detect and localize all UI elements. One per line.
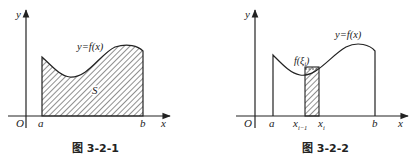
shaded-region-s [42,45,143,116]
y-axis-label: y [15,8,21,20]
region-s-label: S [92,84,98,96]
x-axis-label: x [397,117,403,129]
x-i-label: xi [317,117,325,131]
f-xi-label: f(ξi) [294,55,310,67]
origin-label: O [244,117,252,129]
x-i-minus-1-label: xi−1 [292,117,307,131]
b-label: b [372,117,378,129]
curve-label: y=f(x) [76,41,104,53]
curve-fx [273,44,375,116]
b-label: b [140,117,146,129]
curve-label: y=f(x) [334,29,362,41]
figure-3-2-2: y O a b x xi−1 xi y=f(x) f(ξi) 图 3-2-2 [236,8,408,155]
y-axis-label: y [244,8,250,20]
a-label: a [38,117,44,129]
caption-3-2-1: 图 3-2-1 [72,142,119,155]
a-label: a [269,117,275,129]
origin-label: O [16,117,24,129]
figure-3-2-1: y O a b x y=f(x) S 图 3-2-1 [8,8,170,155]
figures-canvas: y O a b x y=f(x) S 图 3-2-1 y O a b x xi−… [0,0,415,161]
caption-3-2-2: 图 3-2-2 [302,142,349,155]
x-axis-label: x [160,117,166,129]
